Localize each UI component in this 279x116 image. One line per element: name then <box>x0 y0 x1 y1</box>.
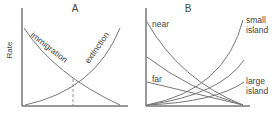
near-label: near <box>152 19 169 29</box>
small-island-extinction-curve <box>147 20 243 105</box>
near-immigration-curve <box>147 22 243 105</box>
far-label: far <box>152 74 162 84</box>
small-island-label-line1: small <box>246 15 266 25</box>
large-island-label-line2: island <box>246 86 268 96</box>
small-island-label-line2: island <box>246 25 268 35</box>
large-island-label-line1: large <box>246 76 265 86</box>
panel-a: A Rate immigration extinction <box>5 3 128 106</box>
island-biogeography-diagram: A Rate immigration extinction B near far… <box>0 0 279 116</box>
extinction-label: extinction <box>82 30 111 65</box>
immigration-label: immigration <box>29 30 70 65</box>
panel-b-title: B <box>185 3 192 14</box>
panel-b: B near far small island large island <box>146 3 268 106</box>
y-axis-label: Rate <box>5 41 14 58</box>
panel-a-title: A <box>72 3 79 14</box>
